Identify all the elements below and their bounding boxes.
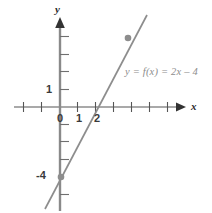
data-point-y-intercept [58, 174, 65, 181]
x-tick-label-2: 2 [94, 113, 100, 124]
data-point-upper [125, 35, 132, 42]
y-tick-label-neg4: -4 [36, 170, 46, 181]
x-axis-label: x [191, 101, 197, 112]
coordinate-plane [0, 0, 212, 213]
x-axis-arrow-icon [176, 103, 186, 112]
x-tick-label-0: 0 [57, 113, 63, 124]
x-tick-label-1: 1 [76, 113, 82, 124]
y-axis-arrow-icon [55, 17, 65, 28]
function-equation-label: y = f(x) = 2x – 4 [125, 67, 198, 78]
y-axis-label: y [55, 4, 60, 15]
graph-figure: y x 0 1 2 1 -4 y = f(x) = 2x – 4 [0, 0, 212, 213]
y-tick-label-1: 1 [46, 84, 52, 95]
